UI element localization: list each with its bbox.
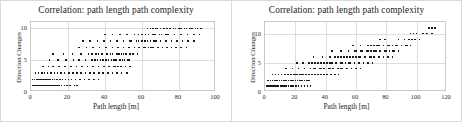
- data-point: [348, 62, 350, 64]
- data-point: [302, 62, 304, 64]
- data-point: [129, 53, 131, 55]
- data-point: [72, 72, 74, 74]
- data-point: [292, 68, 294, 70]
- data-point: [110, 53, 112, 55]
- data-point: [58, 85, 60, 87]
- data-point: [123, 47, 125, 49]
- data-point: [155, 40, 157, 42]
- data-point: [57, 59, 59, 61]
- data-point: [345, 62, 347, 64]
- data-point: [275, 74, 277, 76]
- data-point: [138, 34, 140, 36]
- data-point: [152, 28, 154, 30]
- data-point: [301, 74, 303, 76]
- data-point: [355, 68, 357, 70]
- data-point: [59, 79, 61, 81]
- data-point: [354, 62, 356, 64]
- x-tick-label: 20: [291, 93, 297, 100]
- data-point: [129, 66, 131, 68]
- data-point: [373, 50, 375, 52]
- data-point: [47, 72, 49, 74]
- data-point: [389, 50, 391, 52]
- data-point: [398, 50, 400, 52]
- data-point: [116, 72, 118, 74]
- data-point: [335, 62, 337, 64]
- data-point: [298, 68, 300, 70]
- data-point: [367, 45, 369, 47]
- data-point: [68, 79, 70, 81]
- data-point: [311, 74, 313, 76]
- data-point: [134, 34, 136, 36]
- data-point: [370, 50, 372, 52]
- data-point: [132, 53, 134, 55]
- data-point: [116, 40, 118, 42]
- data-point: [189, 28, 191, 30]
- data-point: [150, 47, 152, 49]
- data-point: [123, 40, 125, 42]
- data-point: [398, 39, 400, 41]
- data-point: [389, 45, 391, 47]
- data-point: [323, 62, 325, 64]
- plot-area: [264, 21, 446, 91]
- data-point: [348, 50, 350, 52]
- data-point: [364, 56, 366, 58]
- left-scatter-panel: Correlation: path length path complexity…: [0, 0, 231, 122]
- data-point: [121, 53, 123, 55]
- data-point: [308, 80, 310, 82]
- data-point: [92, 66, 94, 68]
- data-point: [383, 45, 385, 47]
- data-point: [310, 85, 312, 87]
- data-point: [372, 62, 374, 64]
- data-point: [184, 28, 186, 30]
- data-point: [76, 85, 78, 87]
- data-point: [370, 56, 372, 58]
- data-point: [329, 68, 331, 70]
- data-point: [320, 68, 322, 70]
- data-point: [82, 40, 84, 42]
- x-tick-label: 40: [101, 93, 107, 100]
- data-point: [97, 59, 99, 61]
- data-point: [367, 62, 369, 64]
- data-point: [329, 62, 331, 64]
- data-point: [314, 74, 316, 76]
- data-point: [147, 28, 149, 30]
- data-point: [396, 45, 398, 47]
- data-point: [337, 68, 339, 70]
- data-point: [360, 45, 362, 47]
- data-point: [86, 47, 88, 49]
- data-point: [281, 74, 283, 76]
- data-point: [187, 34, 189, 36]
- data-point: [285, 68, 287, 70]
- data-point: [169, 28, 171, 30]
- data-point: [152, 34, 154, 36]
- data-point: [340, 50, 342, 52]
- data-point: [361, 50, 363, 52]
- data-point: [58, 66, 60, 68]
- data-point: [125, 53, 127, 55]
- data-point: [138, 40, 140, 42]
- data-point: [367, 50, 369, 52]
- data-point: [104, 34, 106, 36]
- data-point: [355, 56, 357, 58]
- data-point: [431, 33, 433, 35]
- data-point: [62, 79, 64, 81]
- data-point: [134, 47, 136, 49]
- x-tick-label: 100: [210, 93, 220, 100]
- data-point: [304, 85, 306, 87]
- figure-container: Correlation: path length path complexity…: [0, 0, 463, 122]
- data-point: [416, 33, 418, 35]
- data-point: [186, 47, 188, 49]
- data-point: [292, 85, 294, 87]
- data-point: [296, 62, 298, 64]
- data-point: [165, 40, 167, 42]
- data-point: [340, 56, 342, 58]
- right-scatter-panel: Correlation: path length path complexity…: [231, 0, 462, 122]
- data-point: [313, 68, 315, 70]
- data-point: [38, 72, 40, 74]
- data-point: [320, 74, 322, 76]
- data-point: [102, 72, 104, 74]
- gridline-vertical: [179, 22, 180, 90]
- data-point: [120, 66, 122, 68]
- data-point: [88, 53, 90, 55]
- data-point: [80, 53, 82, 55]
